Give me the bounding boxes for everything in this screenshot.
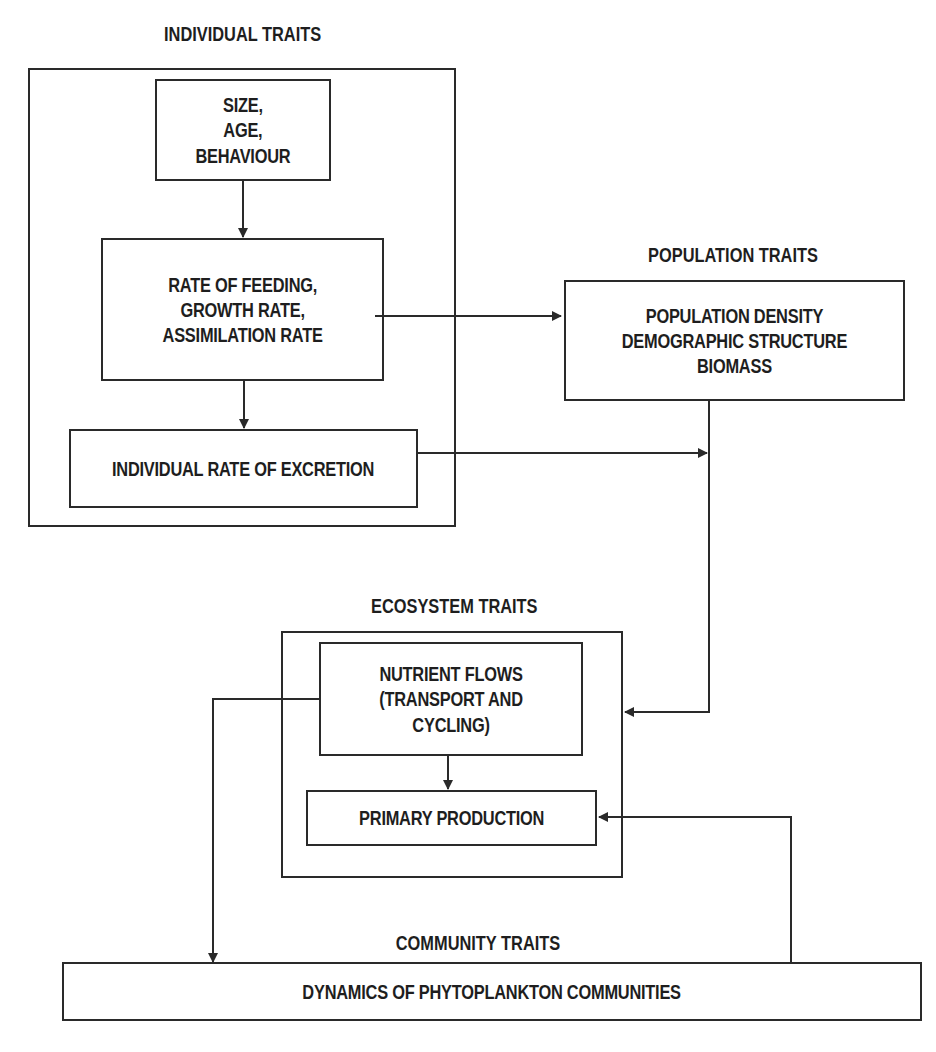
node-nutrient-flows: NUTRIENT FLOWS (TRANSPORT AND CYCLING) bbox=[319, 642, 583, 756]
population-traits-title: POPULATION TRAITS bbox=[636, 243, 831, 267]
individual-traits-title: INDIVIDUAL TRAITS bbox=[164, 22, 320, 46]
node-individual-excretion: INDIVIDUAL RATE OF EXCRETION bbox=[69, 429, 418, 508]
diagram-canvas: INDIVIDUAL TRAITS SIZE, AGE, BEHAVIOUR R… bbox=[0, 0, 936, 1052]
node-primary-production: PRIMARY PRODUCTION bbox=[306, 790, 597, 846]
node-primary-label: PRIMARY PRODUCTION bbox=[359, 805, 544, 830]
ecosystem-traits-title: ECOSYSTEM TRAITS bbox=[371, 594, 527, 618]
node-population-label: POPULATION DENSITY DEMOGRAPHIC STRUCTURE… bbox=[622, 303, 847, 379]
node-dynamics-label: DYNAMICS OF PHYTOPLANKTON COMMUNITIES bbox=[303, 979, 681, 1004]
node-feeding-growth-assimilation: RATE OF FEEDING, GROWTH RATE, ASSIMILATI… bbox=[101, 238, 384, 381]
community-traits-title: COMMUNITY TRAITS bbox=[392, 931, 564, 955]
arrow-community-to-primary bbox=[599, 817, 791, 962]
node-excretion-label: INDIVIDUAL RATE OF EXCRETION bbox=[112, 456, 374, 481]
node-nutrient-label: NUTRIENT FLOWS (TRANSPORT AND CYCLING) bbox=[350, 661, 553, 737]
node-size-label: SIZE, AGE, BEHAVIOUR bbox=[196, 92, 291, 168]
arrow-population-to-ecosystem bbox=[625, 400, 709, 712]
node-phytoplankton-dynamics: DYNAMICS OF PHYTOPLANKTON COMMUNITIES bbox=[62, 962, 922, 1021]
node-population-density: POPULATION DENSITY DEMOGRAPHIC STRUCTURE… bbox=[564, 280, 905, 401]
node-size-age-behaviour: SIZE, AGE, BEHAVIOUR bbox=[155, 79, 331, 181]
node-feeding-label: RATE OF FEEDING, GROWTH RATE, ASSIMILATI… bbox=[162, 272, 322, 348]
